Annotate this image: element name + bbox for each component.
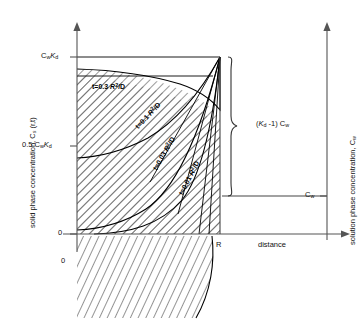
y-axis-left-label-tail: (r,t) — [28, 117, 37, 130]
y-axis-right-arrowhead — [323, 22, 330, 31]
y-axis-left-label-sub: s — [31, 131, 37, 134]
y-tick-label-top-sub2: d — [55, 54, 58, 60]
x-tick-label-origin: 0 — [61, 256, 65, 265]
brace-label: (Kd -1) Cw — [256, 119, 289, 128]
x-axis-label: distance — [258, 240, 286, 249]
curve-label-t-0-3: t=0.3 R2/D — [92, 82, 125, 90]
y-tick-label-zero: 0 — [58, 228, 62, 237]
brace-kd-minus-1-cw — [228, 57, 237, 196]
figure-canvas — [0, 0, 360, 324]
y-axis-right-label-main: solution phase concentration, C — [348, 140, 357, 245]
y-axis-left-arrowhead — [73, 22, 80, 31]
y-axis-right — [320, 22, 331, 240]
brace-label-mid: -1) C — [267, 119, 286, 128]
cw-tick-label: Cw — [305, 190, 314, 199]
hatched-profile-region — [77, 69, 220, 234]
cw-tick-label-sub: w — [310, 193, 314, 199]
figure-container: solid phase concentration, Cs (r,t) solu… — [0, 0, 360, 324]
curve-label-t-0-3-post: /D — [118, 83, 125, 90]
particle-schematic — [77, 236, 213, 318]
y-axis-left-label: solid phase concentration, Cs (r,t) — [28, 117, 37, 228]
solution-phase-step — [220, 57, 327, 234]
x-tick-label-radius: R — [216, 240, 221, 249]
curve-label-t-0-3-pre: t=0.3 — [92, 83, 110, 90]
y-tick-label-middle-prefix: 0.5 — [22, 140, 35, 149]
y-tick-label-middle-sub2: d — [49, 143, 52, 149]
y-tick-label-top: CwKd — [41, 51, 58, 60]
y-tick-label-middle: 0.5 CwKd — [22, 140, 52, 149]
brace-label-c-sub: w — [285, 122, 289, 128]
y-axis-right-label-sub: w — [351, 136, 357, 140]
y-axis-right-label: solution phase concentration, Cw — [348, 136, 357, 245]
